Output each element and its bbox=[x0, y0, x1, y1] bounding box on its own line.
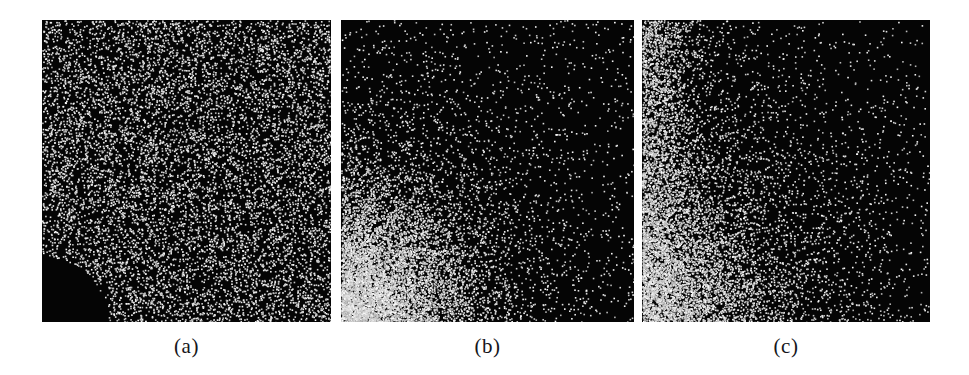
figure-container: (a) (b) (c) bbox=[0, 0, 969, 375]
panel-a-caption: (a) bbox=[42, 336, 331, 357]
panel-a-canvas bbox=[42, 20, 331, 322]
panel-a-particle-field bbox=[42, 20, 331, 322]
panel-c-particle-field bbox=[642, 20, 930, 322]
panel-b-particle-field bbox=[341, 20, 634, 322]
panel-b-caption: (b) bbox=[341, 336, 634, 357]
panel-c-caption: (c) bbox=[642, 336, 930, 357]
panel-c-canvas bbox=[642, 20, 930, 322]
panel-b-canvas bbox=[341, 20, 634, 322]
